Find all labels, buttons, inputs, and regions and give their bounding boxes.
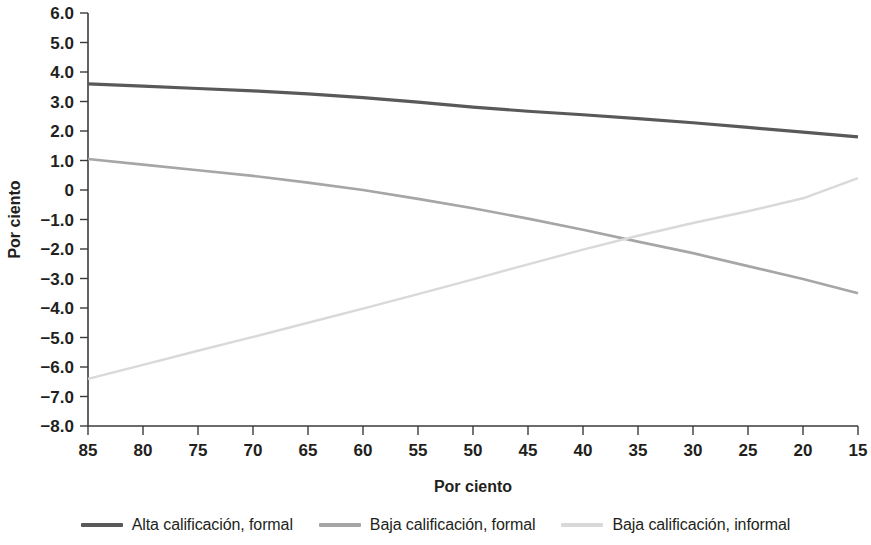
series-lines [88, 84, 858, 379]
y-axis-group: 6.05.04.03.02.01.00−1.0−2.0−3.0−4.0−5.0−… [40, 4, 88, 436]
x-tick-label: 75 [189, 441, 208, 460]
x-tick-label: 35 [629, 441, 648, 460]
x-tick-label: 50 [464, 441, 483, 460]
x-tick-label: 80 [134, 441, 153, 460]
series-line-1 [88, 159, 858, 293]
x-tick-label: 20 [794, 441, 813, 460]
y-tick-label: −3.0 [40, 270, 74, 289]
legend-label: Alta calificación, formal [132, 516, 293, 534]
legend-label: Baja calificación, formal [370, 516, 536, 534]
x-tick-label: 30 [684, 441, 703, 460]
y-tick-label: −8.0 [40, 417, 74, 436]
chart-figure: 6.05.04.03.02.01.00−1.0−2.0−3.0−4.0−5.0−… [0, 0, 871, 545]
y-axis-ticks [80, 13, 88, 426]
y-tick-label: −4.0 [40, 299, 74, 318]
y-tick-label: −6.0 [40, 358, 74, 377]
chart-legend: Alta calificación, formalBaja calificaci… [0, 516, 871, 534]
legend-label: Baja calificación, informal [612, 516, 790, 534]
x-tick-label: 15 [849, 441, 868, 460]
y-axis-title: Por ciento [6, 180, 23, 258]
x-tick-label: 25 [739, 441, 758, 460]
x-axis-ticks [88, 426, 858, 435]
legend-line-swatch-icon [561, 523, 603, 527]
y-tick-label: −1.0 [40, 211, 74, 230]
x-tick-label: 40 [574, 441, 593, 460]
legend-item[interactable]: Baja calificación, formal [319, 516, 536, 534]
y-axis-tick-labels: 6.05.04.03.02.01.00−1.0−2.0−3.0−4.0−5.0−… [40, 4, 74, 436]
y-tick-label: −5.0 [40, 329, 74, 348]
x-tick-label: 55 [409, 441, 428, 460]
x-axis-title: Por ciento [434, 478, 512, 495]
y-tick-label: 6.0 [50, 4, 74, 23]
y-tick-label: 3.0 [50, 93, 74, 112]
legend-item[interactable]: Baja calificación, informal [561, 516, 790, 534]
x-axis-group: 858075706560555045403530252015 [79, 426, 868, 460]
legend-line-swatch-icon [81, 523, 123, 527]
y-tick-label: −2.0 [40, 240, 74, 259]
y-tick-label: −7.0 [40, 388, 74, 407]
legend-item[interactable]: Alta calificación, formal [81, 516, 293, 534]
x-tick-label: 70 [244, 441, 263, 460]
y-tick-label: 1.0 [50, 152, 74, 171]
line-chart: 6.05.04.03.02.01.00−1.0−2.0−3.0−4.0−5.0−… [0, 0, 871, 516]
y-tick-label: 4.0 [50, 63, 74, 82]
legend-line-swatch-icon [319, 523, 361, 527]
x-tick-label: 45 [519, 441, 538, 460]
y-tick-label: 0 [65, 181, 74, 200]
x-tick-label: 85 [79, 441, 98, 460]
y-tick-label: 5.0 [50, 34, 74, 53]
x-tick-label: 65 [299, 441, 318, 460]
x-axis-tick-labels: 858075706560555045403530252015 [79, 441, 868, 460]
series-line-0 [88, 84, 858, 137]
x-tick-label: 60 [354, 441, 373, 460]
y-tick-label: 2.0 [50, 122, 74, 141]
